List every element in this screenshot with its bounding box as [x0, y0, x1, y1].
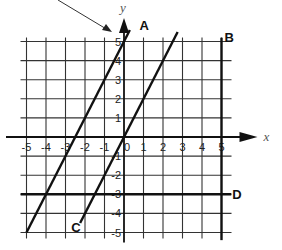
- line-label-c: C: [71, 220, 81, 235]
- y-tick-label: 5: [115, 36, 121, 48]
- y-tick-label: -5: [111, 227, 121, 239]
- y-tick-label: -2: [111, 169, 121, 181]
- graph-lines: [21, 30, 232, 240]
- y-axis-label: y: [118, 0, 126, 15]
- x-tick-label: 2: [160, 141, 166, 153]
- line-labels: ABCD: [71, 18, 241, 235]
- y-tick-label: 1: [115, 112, 121, 124]
- x-tick-label: -5: [22, 141, 32, 153]
- line-label-d: D: [232, 187, 241, 202]
- x-tick-label: -1: [100, 141, 110, 153]
- x-tick-label: -2: [80, 141, 90, 153]
- grid: [21, 38, 232, 239]
- line-label-a: A: [140, 18, 150, 33]
- pointer-arrow-line: [58, 0, 108, 30]
- x-axis-label: x: [263, 129, 270, 144]
- x-tick-label: 1: [140, 141, 146, 153]
- x-tick-label: -4: [41, 141, 51, 153]
- line-label-b: B: [224, 30, 233, 45]
- y-tick-label: -4: [111, 207, 121, 219]
- pointer-arrowhead-icon: [102, 24, 112, 32]
- x-tick-label: 3: [179, 141, 185, 153]
- y-axis-arrow-icon: [119, 18, 129, 33]
- y-tick-label: 3: [115, 74, 121, 86]
- coordinate-graph: xy -5-4-3-2-101234554321-1-2-3-4-5 ABCD: [0, 0, 282, 250]
- x-tick-label: 0: [124, 141, 130, 153]
- y-tick-label: 2: [115, 93, 121, 105]
- x-tick-label: 4: [199, 141, 205, 153]
- x-axis-arrow-icon: [240, 132, 258, 142]
